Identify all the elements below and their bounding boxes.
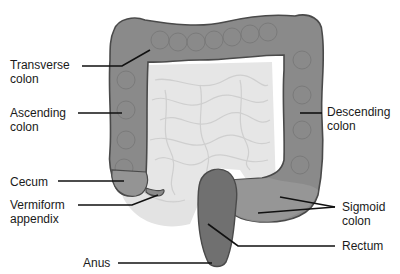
label-cecum: Cecum xyxy=(10,175,48,189)
label-transverse-colon: Transverse colon xyxy=(10,58,70,86)
label-anus: Anus xyxy=(83,256,110,270)
label-vermiform-appendix: Vermiform appendix xyxy=(10,198,65,226)
colon-diagram xyxy=(0,0,400,274)
label-ascending-colon: Ascending colon xyxy=(10,106,66,134)
label-descending-colon: Descending colon xyxy=(327,105,390,133)
label-sigmoid-colon: Sigmoid colon xyxy=(342,200,385,228)
label-rectum: Rectum xyxy=(342,239,383,253)
